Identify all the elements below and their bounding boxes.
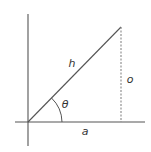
adjacent-label: a	[82, 126, 89, 137]
hypotenuse-line	[28, 27, 121, 122]
angle-theta-label: θ	[62, 99, 69, 110]
opposite-label: o	[127, 74, 134, 85]
angle-arc	[52, 98, 63, 122]
hypotenuse-label: h	[69, 58, 76, 69]
